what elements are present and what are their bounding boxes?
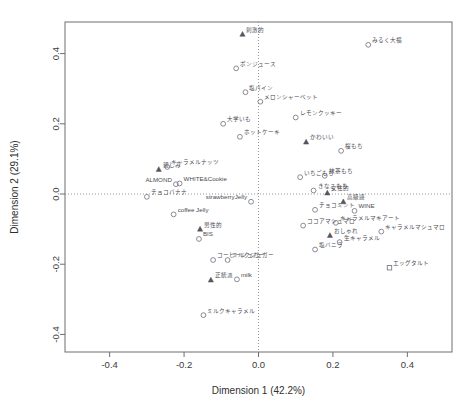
data-point-circle [366, 42, 371, 47]
data-point-label: レモンクッキー [300, 110, 342, 116]
data-point-label: メロンシャーベット [264, 94, 318, 100]
data-point-label: 生キャラメル [344, 234, 380, 241]
data-point-label: 女性的 [331, 184, 349, 192]
data-point-label: coffee Jelly [178, 206, 210, 213]
y-tick-label: -0.2 [50, 256, 61, 272]
data-point-label: 親しみ [163, 161, 181, 169]
data-point-label: 塩バニラ [319, 241, 343, 248]
data-point-label: おしゃれ [334, 228, 358, 235]
data-point-circle [249, 199, 254, 204]
data-point-circle [298, 175, 303, 180]
data-point-label: みるく大福 [372, 36, 402, 44]
data-point-circle [235, 277, 240, 282]
data-point-triangle [327, 233, 332, 238]
data-point-label: BIS [203, 230, 213, 237]
data-point-circle [301, 223, 306, 228]
data-point-triangle [197, 226, 202, 231]
data-point-label: 大学いも [227, 115, 251, 123]
data-point-circle [311, 188, 316, 193]
x-tick-label: -0.4 [101, 359, 117, 370]
y-tick-label: -0.4 [50, 326, 61, 342]
data-point-label: かわいい [310, 134, 334, 141]
data-point-label: milk [241, 271, 253, 278]
data-point-triangle [240, 31, 245, 36]
data-point-circle [144, 194, 149, 199]
data-point-circle [313, 247, 318, 252]
data-point-label: 刺激的 [246, 26, 264, 34]
data-point-circle [243, 90, 248, 95]
data-point-circle [313, 207, 318, 212]
data-point-circle [221, 121, 226, 126]
data-point-circle [352, 208, 357, 213]
y-tick-label: 0.0 [50, 187, 61, 200]
x-axis-title: Dimension 1 (42.2%) [212, 385, 305, 396]
y-tick-label: 0.2 [50, 117, 61, 130]
x-tick-label: 0.2 [326, 359, 339, 370]
data-point-label: ポンジュース [240, 60, 276, 67]
data-point-circle [237, 134, 242, 139]
data-point-label: 男性的 [204, 221, 222, 229]
data-point-circle [379, 229, 384, 234]
data-point-circle [293, 115, 298, 120]
point-labels: みるく大福ポンジュース塩パインメロンシャーベットレモンクッキー大学いもホットケー… [145, 26, 445, 314]
data-point-label: 桜もち [345, 142, 363, 150]
y-tick-label: 0.4 [50, 47, 61, 60]
data-point-label: 正統派 [215, 271, 233, 279]
data-point-triangle [325, 190, 330, 195]
data-point-circle [171, 212, 176, 217]
x-tick-label: 0.0 [252, 359, 265, 370]
y-axis-title: Dimension 2 (29.1%) [9, 140, 20, 233]
data-point-label: いちごもち [304, 169, 334, 177]
plot-canvas: -0.4-0.20.00.20.4-0.4-0.20.00.20.4 みるく大福… [0, 0, 464, 412]
reference-lines [65, 22, 452, 352]
data-point-label: WINE [359, 202, 375, 209]
data-point-label: ALMOND [145, 176, 172, 183]
data-point-triangle [156, 167, 161, 172]
data-point-circle [211, 258, 216, 263]
data-point-label: ミルクキャラメル [207, 308, 255, 314]
data-point-circle [201, 313, 206, 318]
x-tick-label: 0.4 [401, 359, 414, 370]
data-point-label: キャラメルマシュマロ [385, 224, 445, 230]
data-point-circle [234, 66, 239, 71]
data-point-label: strawberryJelly [206, 193, 248, 200]
data-point-circle [339, 148, 344, 153]
data-point-label: チョコバナナ [151, 189, 187, 196]
data-point-triangle [208, 277, 213, 282]
scatter-plot-figure: -0.4-0.20.00.20.4-0.4-0.20.00.20.4 みるく大福… [0, 0, 464, 412]
data-point-label: 高級感 [347, 193, 365, 201]
data-point-label: 塩パイン [249, 84, 273, 91]
data-point-square [387, 266, 391, 270]
data-point-label: エッグタルト [393, 259, 429, 267]
data-point-label: ココアマシュマロ [307, 218, 355, 224]
data-point-label: ホットケーキ [244, 129, 280, 135]
data-point-label: WHITE&Cookie [184, 175, 228, 182]
data-point-triangle [304, 139, 309, 144]
data-point-circle [258, 99, 263, 104]
x-tick-label: -0.2 [176, 359, 192, 370]
data-point-circle [197, 237, 202, 242]
data-point-label: ミルクシュガー [232, 251, 274, 259]
data-point-label: チョコミント [319, 202, 355, 209]
